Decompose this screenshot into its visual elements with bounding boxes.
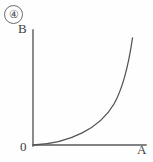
figure-container: ④ B A 0 <box>0 0 153 162</box>
x-axis-label: A <box>137 143 146 156</box>
y-axis-label: B <box>18 22 27 35</box>
origin-label: 0 <box>20 140 27 153</box>
exponential-curve <box>34 38 133 145</box>
